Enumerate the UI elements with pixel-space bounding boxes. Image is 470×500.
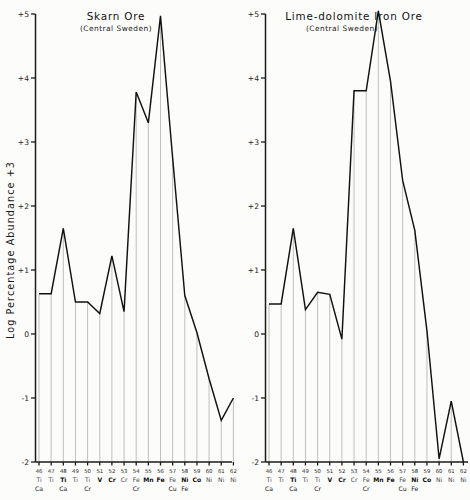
x-element-symbol: Ti — [314, 476, 321, 483]
x-element-symbol-secondary: Ca — [289, 485, 297, 492]
x-element-symbol: Cr — [338, 476, 345, 483]
x-element-symbol: Ni — [411, 476, 418, 483]
x-mass-number: 59 — [194, 468, 201, 474]
x-element-symbol: Co — [193, 476, 202, 483]
y-tick-label: +5 — [248, 10, 259, 19]
y-tick-labels-left: +5+4+3+2+10-1-2 — [18, 10, 29, 467]
x-element-symbol: V — [327, 476, 332, 483]
x-element-symbol: Ti — [290, 476, 296, 483]
x-element-symbol: Fe — [133, 476, 140, 483]
x-mass-number: 54 — [133, 468, 140, 474]
x-mass-number: 57 — [169, 468, 176, 474]
x-element-symbol: Fe — [386, 476, 394, 483]
x-mass-number: 59 — [424, 468, 431, 474]
x-element-symbol: Mn — [373, 476, 383, 483]
x-element-symbol: Ni — [218, 476, 225, 483]
panel-title-right: Lime-dolomite Iron Ore — [285, 10, 422, 22]
x-mass-number: 60 — [436, 468, 443, 474]
x-mass-number: 51 — [326, 468, 333, 474]
x-mass-number: 57 — [399, 468, 406, 474]
x-mass-number: 54 — [363, 468, 370, 474]
x-element-symbol: Co — [423, 476, 432, 483]
y-tick-label: -1 — [21, 394, 29, 403]
x-mass-number: 53 — [351, 468, 358, 474]
x-mass-number: 47 — [48, 468, 55, 474]
chart-svg-skarn-ore: +5+4+3+2+10-1-2 Log Percentage Abundance… — [0, 0, 240, 500]
x-element-symbol: Ti — [278, 476, 285, 483]
x-element-symbol: Ni — [206, 476, 213, 483]
x-element-symbol: Ni — [181, 476, 188, 483]
x-element-symbol: Ti — [302, 476, 309, 483]
chart-panel-skarn-ore: +5+4+3+2+10-1-2 Log Percentage Abundance… — [0, 0, 240, 500]
x-mass-number: 56 — [157, 468, 164, 474]
x-mass-number: 52 — [109, 468, 116, 474]
y-tick-label: +1 — [248, 266, 259, 275]
y-tick-label: +4 — [248, 74, 259, 83]
y-tick-label: +5 — [18, 10, 29, 19]
x-mass-number: 50 — [84, 468, 91, 474]
panel-title-left: Skarn Ore — [87, 10, 146, 22]
x-mass-number: 55 — [375, 468, 382, 474]
x-element-symbol-secondary: Ca — [35, 485, 43, 492]
chart-panel-lime-dolomite-iron-ore: +5+4+3+2+10-1-2 Lime-dolomite Iron Ore (… — [232, 0, 470, 500]
y-tick-labels-right: +5+4+3+2+10-1-2 — [248, 10, 259, 467]
x-element-symbol-secondary: Cr — [363, 485, 370, 492]
x-element-symbol: Ti — [72, 476, 79, 483]
x-element-symbol: Ni — [448, 476, 455, 483]
x-mass-number: 49 — [72, 468, 79, 474]
x-mass-number: 52 — [339, 468, 346, 474]
x-element-symbol: Ti — [60, 476, 66, 483]
x-element-symbol-secondary: Cr — [84, 485, 91, 492]
x-axis-labels-left: 46TiCa47Ti48TiCa49Ti50TiCr51V52Cr53Cr54F… — [35, 468, 237, 492]
x-mass-number: 56 — [387, 468, 394, 474]
x-element-symbol-secondary: Ca — [59, 485, 67, 492]
x-element-symbol-secondary: Cr — [314, 485, 321, 492]
x-element-symbol-secondary: Ca — [265, 485, 273, 492]
y-tick-label: +2 — [248, 202, 259, 211]
x-element-symbol-secondary: Cr — [133, 485, 140, 492]
x-element-symbol: Ti — [48, 476, 55, 483]
x-mass-number: 55 — [145, 468, 152, 474]
y-tick-label: +4 — [18, 74, 29, 83]
x-element-symbol: Fe — [169, 476, 176, 483]
x-mass-number: 51 — [96, 468, 103, 474]
x-axis-labels-right: 46TiCa47Ti48TiCa49Ti50TiCr51V52Cr53Cr54F… — [265, 468, 467, 492]
x-mass-number: 49 — [302, 468, 309, 474]
figure-root: +5+4+3+2+10-1-2 Log Percentage Abundance… — [0, 0, 470, 500]
x-element-symbol: Fe — [399, 476, 406, 483]
x-mass-number: 46 — [266, 468, 273, 474]
y-tick-label: +3 — [248, 138, 259, 147]
x-mass-number: 62 — [460, 468, 467, 474]
x-element-symbol: Ti — [265, 476, 272, 483]
y-tick-label: +1 — [18, 266, 29, 275]
x-mass-number: 60 — [206, 468, 213, 474]
y-tick-label: -2 — [251, 458, 259, 467]
x-element-symbol-secondary: Fe — [181, 485, 188, 492]
x-element-symbol: Ni — [460, 476, 467, 483]
x-element-symbol-secondary: Cu — [169, 485, 177, 492]
x-element-symbol: V — [97, 476, 102, 483]
x-element-symbol: Ni — [436, 476, 443, 483]
x-mass-number: 58 — [411, 468, 418, 474]
panel-subtitle-left: (Central Sweden) — [80, 24, 152, 33]
y-tick-label: 0 — [254, 330, 259, 339]
panel-subtitle-right: (Central Sweden) — [306, 24, 378, 33]
y-tick-label: 0 — [24, 330, 29, 339]
x-element-symbol: Mn — [143, 476, 153, 483]
x-mass-number: 48 — [60, 468, 67, 474]
y-axis-title-left: Log Percentage Abundance +3 — [5, 161, 16, 339]
y-tick-label: +3 — [18, 138, 29, 147]
x-element-symbol: Cr — [121, 476, 128, 483]
gridlines-left — [39, 16, 233, 462]
x-element-symbol-secondary: Fe — [411, 485, 418, 492]
x-element-symbol: Ti — [84, 476, 91, 483]
x-element-symbol: Cr — [108, 476, 115, 483]
x-mass-number: 48 — [290, 468, 297, 474]
gridlines-right — [269, 11, 463, 462]
x-element-symbol: Cr — [351, 476, 358, 483]
chart-svg-lime-dolomite: +5+4+3+2+10-1-2 Lime-dolomite Iron Ore (… — [232, 0, 470, 500]
x-element-symbol-secondary: Cu — [399, 485, 407, 492]
x-element-symbol: Ti — [35, 476, 42, 483]
x-mass-number: 46 — [36, 468, 43, 474]
x-mass-number: 61 — [218, 468, 225, 474]
